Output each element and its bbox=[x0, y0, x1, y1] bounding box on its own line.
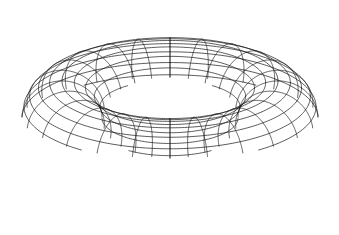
torus-wireframe bbox=[0, 0, 339, 235]
torus-meridian-line bbox=[298, 90, 299, 97]
torus-meridian-line bbox=[274, 79, 275, 89]
figure-canvas bbox=[0, 0, 339, 235]
torus-parallel-line bbox=[212, 86, 239, 107]
torus-meridian-line bbox=[65, 79, 66, 89]
torus-meridians-group bbox=[22, 38, 318, 159]
torus-meridian-line bbox=[42, 90, 43, 97]
